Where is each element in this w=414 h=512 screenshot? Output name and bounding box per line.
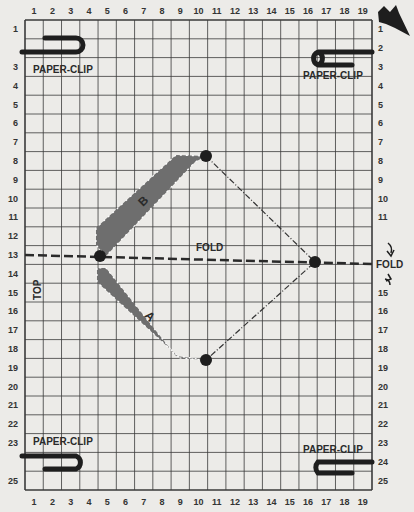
column-label-bottom: 12 xyxy=(230,497,240,507)
column-label-top: 12 xyxy=(230,6,240,16)
paper-clip-icon-top-right xyxy=(314,52,372,65)
grid-diagram: 1234567891011121314151617181912345678910… xyxy=(0,0,414,512)
column-label-top: 16 xyxy=(303,6,313,16)
column-label-bottom: 2 xyxy=(50,497,55,507)
column-label-bottom: 7 xyxy=(141,497,146,507)
row-label-right: 6 xyxy=(378,118,383,128)
row-label-left: 20 xyxy=(8,382,18,392)
row-label-right: 15 xyxy=(378,288,388,298)
row-label-right: 5 xyxy=(378,100,383,110)
column-label-top: 14 xyxy=(267,6,277,16)
row-label-right: 19 xyxy=(378,363,388,373)
column-label-top: 4 xyxy=(86,6,91,16)
column-label-top: 17 xyxy=(321,6,331,16)
row-label-left: 19 xyxy=(8,363,18,373)
column-label-top: 3 xyxy=(68,6,73,16)
paper-clip-label-top-right: PAPER-CLIP xyxy=(303,70,363,81)
row-label-left: 5 xyxy=(13,100,18,110)
column-label-bottom: 6 xyxy=(123,497,128,507)
row-label-left: 11 xyxy=(8,212,18,222)
column-label-top: 10 xyxy=(193,6,203,16)
row-label-right: 9 xyxy=(378,175,383,185)
row-label-right: 8 xyxy=(378,156,383,166)
point-top xyxy=(200,150,212,162)
row-label-left: 17 xyxy=(8,325,18,335)
paper-clip-label-bottom-left: PAPER-CLIP xyxy=(33,436,93,447)
row-label-left: 25 xyxy=(8,476,18,486)
row-label-right: 21 xyxy=(378,400,388,410)
row-label-right: 20 xyxy=(378,382,388,392)
row-label-right: 2 xyxy=(378,43,383,53)
column-label-bottom: 17 xyxy=(321,497,331,507)
column-label-bottom: 5 xyxy=(105,497,110,507)
row-label-left: 23 xyxy=(8,438,18,448)
point-left xyxy=(94,250,106,262)
row-label-left: 3 xyxy=(13,62,18,72)
fold-label-center: FOLD xyxy=(196,242,223,253)
column-label-bottom: 11 xyxy=(212,497,222,507)
top-label: TOP xyxy=(32,279,43,300)
row-label-left: 21 xyxy=(8,400,18,410)
paper-clip-icon-top-left xyxy=(22,38,83,52)
column-label-top: 2 xyxy=(50,6,55,16)
paper-clip-icon-bottom-left xyxy=(22,456,80,469)
row-label-left: 18 xyxy=(8,344,18,354)
row-label-right: 24 xyxy=(378,457,388,467)
column-label-bottom: 10 xyxy=(193,497,203,507)
fold-label-right: FOLD xyxy=(376,259,403,270)
column-label-top: 8 xyxy=(159,6,164,16)
column-label-top: 18 xyxy=(340,6,350,16)
row-label-right: 10 xyxy=(378,194,388,204)
column-label-top: 15 xyxy=(285,6,295,16)
row-label-right: 22 xyxy=(378,419,388,429)
row-label-right: 4 xyxy=(378,81,383,91)
column-label-bottom: 15 xyxy=(285,497,295,507)
column-label-bottom: 16 xyxy=(303,497,313,507)
row-label-left: 14 xyxy=(8,269,18,279)
row-label-left: 4 xyxy=(13,81,18,91)
column-label-bottom: 14 xyxy=(267,497,277,507)
row-label-right: 7 xyxy=(378,137,383,147)
point-right xyxy=(309,256,321,268)
column-label-top: 5 xyxy=(105,6,110,16)
paper-clip-label-top-left: PAPER-CLIP xyxy=(33,64,93,75)
column-label-top: 13 xyxy=(248,6,258,16)
column-label-bottom: 8 xyxy=(159,497,164,507)
row-label-right: 3 xyxy=(378,62,383,72)
row-label-left: 22 xyxy=(8,419,18,429)
row-label-left: 1 xyxy=(13,24,18,34)
column-label-top: 11 xyxy=(212,6,222,16)
column-label-top: 7 xyxy=(141,6,146,16)
row-label-left: 6 xyxy=(13,118,18,128)
row-label-left: 9 xyxy=(13,175,18,185)
row-label-left: 10 xyxy=(8,194,18,204)
row-label-right: 25 xyxy=(378,476,388,486)
row-label-right: 1 xyxy=(378,24,383,34)
column-label-bottom: 13 xyxy=(248,497,258,507)
row-label-right: 17 xyxy=(378,325,388,335)
column-label-bottom: 18 xyxy=(340,497,350,507)
column-label-bottom: 1 xyxy=(32,497,37,507)
row-label-left: 13 xyxy=(8,250,18,260)
row-label-left: 12 xyxy=(8,231,18,241)
paper-clip-label-bottom-right: PAPER-CLIP xyxy=(303,444,363,455)
column-label-bottom: 3 xyxy=(68,497,73,507)
row-label-left: 8 xyxy=(13,156,18,166)
column-label-bottom: 9 xyxy=(178,497,183,507)
row-label-left: 15 xyxy=(8,288,18,298)
row-label-left: 7 xyxy=(13,137,18,147)
point-bottom xyxy=(200,354,212,366)
column-label-bottom: 19 xyxy=(358,497,368,507)
column-label-top: 19 xyxy=(358,6,368,16)
grid-lines xyxy=(25,20,372,490)
column-label-top: 6 xyxy=(123,6,128,16)
row-label-right: 11 xyxy=(378,212,388,222)
row-label-right: 16 xyxy=(378,306,388,316)
row-label-left: 16 xyxy=(8,306,18,316)
column-label-top: 9 xyxy=(178,6,183,16)
row-label-right: 23 xyxy=(378,438,388,448)
column-label-top: 1 xyxy=(32,6,37,16)
column-label-bottom: 4 xyxy=(86,497,91,507)
row-label-right: 18 xyxy=(378,344,388,354)
